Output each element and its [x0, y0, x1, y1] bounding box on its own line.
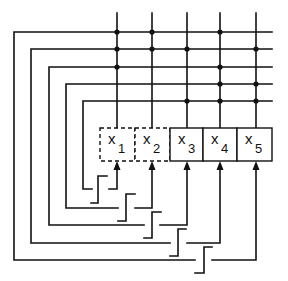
crosspoint-dot [149, 29, 154, 34]
cell-subscript: 5 [255, 141, 262, 156]
crosspoint-dot [253, 81, 258, 86]
shift-register-diagram: x1x2x3x4x5 [0, 0, 288, 281]
crosspoint-dot [217, 64, 222, 69]
crosspoint-dot [217, 81, 222, 86]
crosspoint-dot [184, 98, 189, 103]
switch-4 [170, 229, 186, 256]
register-cell-2: x2 [135, 128, 170, 161]
feedback-input-4 [135, 168, 152, 208]
feedback-input-1 [212, 168, 256, 260]
register-cell-4: x4 [203, 128, 237, 161]
crosspoint-dot [114, 29, 119, 34]
crosspoint-dot [184, 46, 189, 51]
crosspoint-dot [114, 64, 119, 69]
crosspoint-dot [114, 46, 119, 51]
register-cell-1: x1 [100, 128, 135, 161]
cell-variable: x [108, 130, 116, 147]
crosspoint-dot [253, 98, 258, 103]
switch-1 [91, 176, 107, 203]
cell-variable: x [178, 130, 186, 147]
arrow-up-icon [114, 161, 121, 170]
input-arrows [114, 161, 260, 170]
feedback-input-5 [109, 168, 117, 189]
switch-5 [195, 247, 212, 273]
register-cell-5: x5 [237, 128, 272, 161]
crosspoint-dot [217, 29, 222, 34]
feedback-input-2 [187, 168, 220, 243]
cell-border [203, 128, 237, 161]
crosspoint-dot [217, 98, 222, 103]
feedback-input-3 [160, 168, 187, 225]
crosspoint-dot [253, 46, 258, 51]
arrow-up-icon [149, 161, 156, 170]
cell-variable: x [143, 130, 151, 147]
cell-subscript: 2 [153, 141, 160, 156]
switch-2 [118, 194, 135, 221]
cell-border [170, 128, 203, 161]
crosspoint-dot [149, 46, 154, 51]
register-cells: x1x2x3x4x5 [100, 128, 272, 161]
arrow-up-icon [184, 161, 191, 170]
cell-subscript: 4 [221, 141, 228, 156]
cell-variable: x [245, 130, 253, 147]
arrow-up-icon [253, 161, 260, 170]
cell-variable: x [211, 130, 219, 147]
switch-3 [144, 212, 161, 238]
cell-subscript: 3 [188, 141, 195, 156]
cell-subscript: 1 [118, 141, 125, 156]
arrow-up-icon [217, 161, 224, 170]
register-cell-3: x3 [170, 128, 203, 161]
